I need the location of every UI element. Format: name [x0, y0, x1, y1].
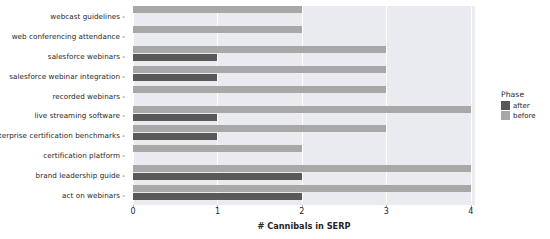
bar-before: [133, 6, 302, 13]
bar-group: [133, 66, 475, 86]
bar-after: [133, 173, 302, 180]
y-tick-label: salesforce webinars -: [48, 51, 125, 60]
x-tick-label: 0: [130, 207, 135, 216]
bar-before: [133, 165, 471, 172]
bar-before: [133, 145, 302, 152]
bar-before: [133, 185, 471, 192]
chart-figure: webcast guidelines -web conferencing att…: [0, 0, 550, 239]
legend-label: after: [513, 102, 530, 110]
bar-after: [133, 193, 302, 200]
bar-before: [133, 106, 471, 113]
bar-group: [133, 165, 475, 185]
y-tick-label: webcast guidelines -: [50, 11, 125, 20]
legend-swatch-after: [501, 101, 510, 110]
y-tick-label: enterprise certification benchmarks -: [0, 131, 125, 140]
y-tick-label: recorded webinars -: [52, 91, 125, 100]
x-tick-label: 1: [215, 207, 220, 216]
x-tick-label: 4: [468, 207, 473, 216]
x-tick-label: 3: [384, 207, 389, 216]
bar-group: [133, 26, 475, 46]
bar-before: [133, 46, 386, 53]
bar-after: [133, 74, 217, 81]
legend-label: before: [513, 112, 536, 120]
y-tick-label: act on webinars -: [62, 191, 125, 200]
y-tick-label: certification platform -: [43, 151, 125, 160]
bar-after: [133, 114, 217, 121]
bar-before: [133, 26, 302, 33]
x-tick-label: 2: [299, 207, 304, 216]
bar-group: [133, 185, 475, 205]
bar-group: [133, 145, 475, 165]
y-tick-label: salesforce webinar integration -: [9, 71, 125, 80]
legend-swatch-before: [501, 111, 510, 120]
bar-before: [133, 125, 386, 132]
legend-entries: afterbefore: [501, 101, 549, 120]
bar-before: [133, 66, 386, 73]
plot-area: [133, 6, 475, 205]
bar-after: [133, 54, 217, 61]
bar-before: [133, 86, 386, 93]
y-tick-label: brand leadership guide -: [36, 171, 125, 180]
y-tick-label: web conferencing attendance -: [12, 31, 125, 40]
x-axis-title: # Cannibals in SERP: [133, 221, 475, 231]
y-axis-labels: webcast guidelines -web conferencing att…: [0, 6, 133, 205]
bar-group: [133, 46, 475, 66]
bar-group: [133, 125, 475, 145]
x-axis-labels: 01234: [133, 205, 475, 221]
legend-title: Phase: [501, 90, 549, 99]
bar-group: [133, 6, 475, 26]
legend-item-before[interactable]: before: [501, 111, 549, 120]
bar-after: [133, 133, 217, 140]
bar-group: [133, 86, 475, 106]
y-tick-label: live streaming software -: [34, 111, 125, 120]
legend-item-after[interactable]: after: [501, 101, 549, 110]
bar-group: [133, 106, 475, 126]
legend: Phase afterbefore: [501, 90, 549, 121]
